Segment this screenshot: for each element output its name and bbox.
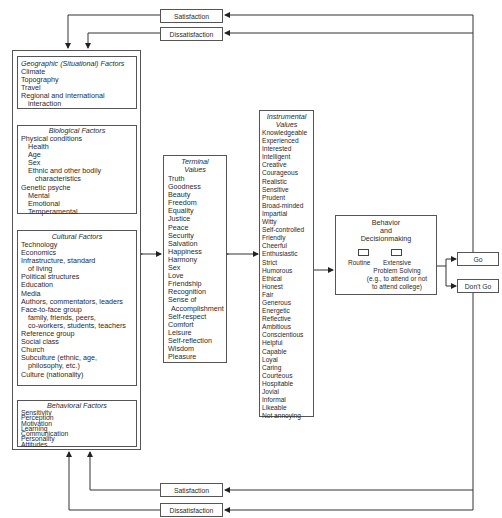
list-item: Reflective — [262, 315, 307, 323]
list-item: Ethical — [262, 275, 307, 283]
decision-box: Behavior and Decisionmaking Routine Exte… — [335, 215, 437, 295]
list-item: Attitudes — [21, 442, 68, 447]
dissatisfaction-feedback-top: Dissatisfaction — [160, 27, 223, 41]
satisfaction-label: Satisfaction — [174, 13, 209, 20]
list-item: Self-controlled — [262, 226, 307, 234]
terminal-values-box: Terminal Values Truth Goodness Beauty Fr… — [163, 155, 227, 363]
list-item: Interested — [262, 145, 307, 153]
go-box: Go — [457, 252, 499, 266]
list-item: Sensitive — [262, 186, 307, 194]
instrumental-values-box: Instrumental Values Knowledgeable Experi… — [259, 110, 314, 417]
list-item: Strict — [262, 259, 307, 267]
list-item: Jovial — [262, 388, 307, 396]
biological-factors-box: Biological Factors Physical conditions H… — [17, 125, 137, 214]
extensive-node — [391, 249, 402, 256]
routine-node — [358, 249, 369, 256]
list-item: Friendly — [262, 234, 307, 242]
terminal-values-list: Truth Goodness Beauty Freedom Equality J… — [168, 175, 224, 361]
list-item: Impartial — [262, 210, 307, 218]
list-item: Pleasure — [168, 353, 224, 361]
satisfaction-feedback-top: Satisfaction — [160, 9, 223, 23]
list-item: Humorous — [262, 267, 307, 275]
list-item: Temperamental — [21, 208, 101, 216]
list-item: interaction — [21, 100, 105, 108]
list-item: Hospitable — [262, 380, 307, 388]
cultural-factors-list: Technology Economics Infrastructure, sta… — [21, 241, 126, 379]
extensive-label-1: Extensive — [358, 259, 436, 267]
satisfaction-label: Satisfaction — [174, 487, 209, 494]
satisfaction-feedback-bottom: Satisfaction — [160, 483, 223, 497]
cultural-factors-box: Cultural Factors Technology Economics In… — [17, 230, 137, 386]
list-item: Courteous — [262, 372, 307, 380]
extensive-label-4: to attend college) — [358, 283, 436, 291]
list-item: Creative — [262, 161, 307, 169]
list-item: Cheerful — [262, 242, 307, 250]
decision-title-3: Decisionmaking — [336, 235, 436, 243]
terminal-values-title-2: Values — [164, 166, 226, 174]
dissatisfaction-label: Dissatisfaction — [170, 31, 214, 38]
list-item: Culture (nationality) — [21, 371, 126, 379]
list-item: Honest — [262, 283, 307, 291]
list-item: Courageous — [262, 169, 307, 177]
extensive-label-3: (e.g., to attend or not — [358, 275, 436, 283]
list-item: Generous — [262, 299, 307, 307]
list-item: Conscientious — [262, 331, 307, 339]
list-item: Intelligent — [262, 153, 307, 161]
list-item: Fair — [262, 291, 307, 299]
list-item: Broad-minded — [262, 202, 307, 210]
list-item: Prudent — [262, 194, 307, 202]
list-item: Energetic — [262, 307, 307, 315]
geographic-factors-box: Geographic (Situational) Factors Climate… — [17, 56, 137, 109]
geographic-factors-list: Climate Topography Travel Regional and i… — [21, 68, 105, 108]
dissatisfaction-feedback-bottom: Dissatisfaction — [160, 503, 223, 517]
dont-go-box: Don't Go — [457, 279, 499, 293]
dont-go-label: Don't Go — [465, 283, 492, 290]
list-item: Loyal — [262, 356, 307, 364]
list-item: Informal — [262, 396, 307, 404]
list-item: Knowledgeable — [262, 129, 307, 137]
instrumental-values-list: Knowledgeable Experienced Interested Int… — [262, 129, 307, 420]
list-item: Not annoying — [262, 412, 307, 420]
list-item: Witty — [262, 218, 307, 226]
list-item: Experienced — [262, 137, 307, 145]
list-item: Caring — [262, 364, 307, 372]
instrumental-values-title-2: Values — [260, 121, 313, 129]
biological-factors-list: Physical conditions Health Age Sex Ethni… — [21, 135, 101, 216]
behavioral-factors-box: Behavioral Factors Sensitivity Perceptio… — [17, 400, 137, 447]
behavioral-factors-list: Sensitivity Perception Motivation Learni… — [21, 410, 68, 447]
list-item: Enthusiastic — [262, 250, 307, 258]
list-item: Ambitious — [262, 323, 307, 331]
go-label: Go — [473, 256, 482, 263]
list-item: Likeable — [262, 404, 307, 412]
list-item: Capable — [262, 348, 307, 356]
list-item: Helpful — [262, 339, 307, 347]
list-item: Realistic — [262, 178, 307, 186]
dissatisfaction-label: Dissatisfaction — [170, 507, 214, 514]
extensive-label-2: Problem Solving — [358, 267, 436, 275]
